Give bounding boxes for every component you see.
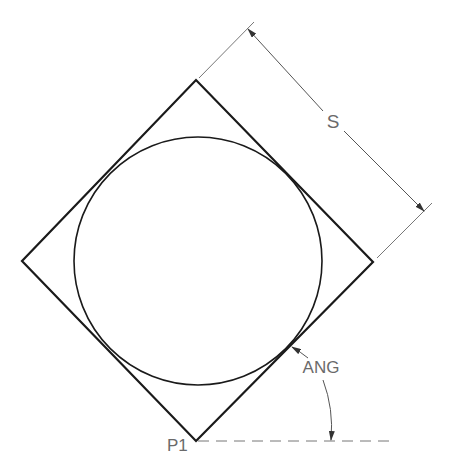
dimension-label-s: S [327,111,340,132]
angle-arc-lower [323,380,332,440]
inscribed-circle [74,137,322,385]
angle-label-ang: ANG [303,358,340,377]
angle-arc-upper [292,347,308,358]
point-label-p1: P1 [167,436,188,455]
dimension-line-s-lower [344,131,424,211]
extension-line-top [199,22,254,78]
diagram-canvas: S ANG P1 [0,0,455,474]
dimension-line-s-upper [248,29,323,111]
